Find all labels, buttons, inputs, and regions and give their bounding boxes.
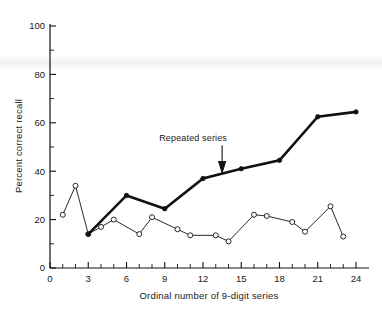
non-repeated-series-points — [60, 183, 346, 244]
x-tick-label: 9 — [162, 273, 167, 284]
data-point-open — [99, 224, 104, 229]
y-tick-label: 80 — [34, 69, 45, 80]
y-tick-label: 20 — [34, 214, 45, 225]
data-point-open — [264, 213, 269, 218]
data-point-open — [111, 217, 116, 222]
series-non-repeated — [60, 183, 346, 244]
y-axis-ticks — [50, 26, 56, 268]
data-point-open — [252, 212, 257, 217]
data-point-filled — [124, 193, 128, 197]
x-tick-label: 21 — [312, 273, 323, 284]
data-point-filled — [354, 110, 358, 114]
y-tick-label: 60 — [34, 117, 45, 128]
data-point-open — [175, 227, 180, 232]
data-point-open — [73, 183, 78, 188]
data-point-open — [188, 233, 193, 238]
x-axis-title: Ordinal number of 9-digit series — [140, 290, 279, 301]
x-tick-label: 24 — [351, 273, 362, 284]
data-point-filled — [239, 167, 243, 171]
x-tick-label: 3 — [86, 273, 91, 284]
data-point-open — [290, 220, 295, 225]
x-tick-label: 12 — [198, 273, 209, 284]
x-axis-tick-labels: 03691215182124 — [47, 273, 361, 284]
y-tick-label: 40 — [34, 166, 45, 177]
data-point-open — [303, 229, 308, 234]
data-point-open — [150, 215, 155, 220]
y-tick-label: 100 — [29, 20, 45, 31]
data-point-filled — [86, 232, 90, 236]
x-tick-label: 18 — [274, 273, 285, 284]
y-tick-label: 0 — [40, 262, 45, 273]
y-axis-title: Percent correct recall — [13, 99, 24, 193]
x-tick-label: 6 — [124, 273, 129, 284]
x-tick-label: 0 — [47, 273, 52, 284]
annotation-arrow-head — [219, 162, 226, 173]
data-point-open — [137, 232, 142, 237]
data-point-open — [213, 233, 218, 238]
annotation-label: Repeated series — [159, 133, 227, 143]
data-point-open — [226, 239, 231, 244]
data-point-filled — [201, 176, 205, 180]
non-repeated-series-line — [63, 186, 344, 242]
x-tick-label: 15 — [236, 273, 247, 284]
data-point-open — [328, 204, 333, 209]
data-point-open — [60, 212, 65, 217]
chart-figure: 020406080100 03691215182124 Repeated ser… — [0, 0, 382, 313]
data-point-filled — [163, 207, 167, 211]
y-axis-tick-labels: 020406080100 — [29, 20, 45, 273]
annotation-repeated-series: Repeated series — [159, 133, 227, 173]
axes-group — [50, 24, 369, 268]
data-point-open — [341, 234, 346, 239]
data-point-filled — [277, 158, 281, 162]
x-axis-ticks — [50, 262, 356, 268]
data-point-filled — [316, 115, 320, 119]
chart-plot-area: 020406080100 03691215182124 Repeated ser… — [0, 0, 382, 313]
